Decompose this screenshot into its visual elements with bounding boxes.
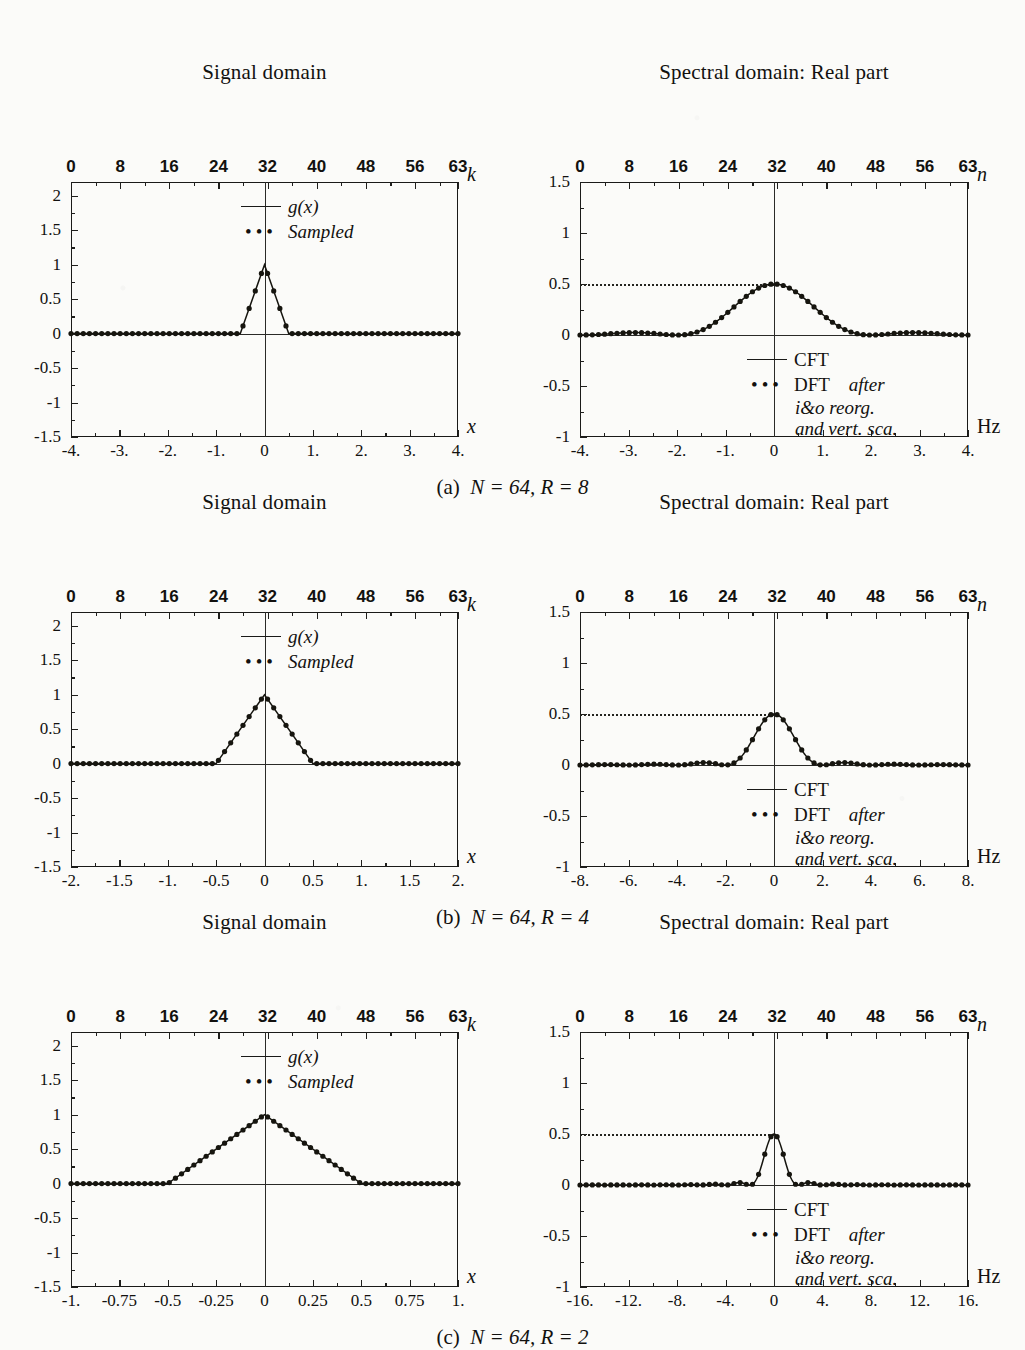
top-tick-label: 48: [356, 1007, 375, 1027]
bottom-tick-label: -1.5: [106, 871, 133, 891]
top-tick-label: 32: [258, 157, 277, 177]
y-tick-label: 2: [53, 1036, 62, 1056]
top-tick-label: 8: [625, 1007, 634, 1027]
bottom-tick-label: -2.: [159, 441, 177, 461]
legend-dot-swatch: •••: [241, 222, 281, 241]
legend-subline: i&o reorg.: [747, 1247, 897, 1268]
legend-entry: •••Sampled: [241, 219, 353, 244]
legend-label: DFT: [794, 1224, 830, 1246]
top-tick-label: 63: [449, 587, 468, 607]
bottom-tick-label: 2.: [816, 871, 829, 891]
top-tick-label: 48: [356, 157, 375, 177]
y-tick-label: 1: [562, 653, 571, 673]
legend-entry: CFT: [747, 1197, 897, 1222]
legend: g(x)•••Sampled: [241, 194, 353, 244]
bottom-tick-label: 1.: [816, 441, 829, 461]
bottom-tick-label: -4.: [62, 441, 80, 461]
y-tick-label: 1: [53, 685, 62, 705]
row-caption: (c) N = 64, R = 2: [0, 1325, 1025, 1350]
legend-label: Sampled: [288, 1071, 353, 1093]
bottom-axis-name: Hz: [977, 415, 1000, 438]
bottom-tick-label: 4.: [452, 441, 465, 461]
top-axis-name: n: [977, 163, 987, 186]
top-tick-label: 40: [307, 157, 326, 177]
y-tick-label: 1.5: [40, 1070, 61, 1090]
bottom-tick-label: 1.: [307, 441, 320, 461]
legend-label: g(x): [288, 196, 319, 218]
y-tick-label: -1: [47, 393, 61, 413]
bottom-tick-label: -0.5: [154, 1291, 181, 1311]
bottom-tick-label: 8.: [865, 1291, 878, 1311]
y-tick-label: -1: [47, 1243, 61, 1263]
top-tick-label: 24: [718, 1007, 737, 1027]
y-tick-label: -1.5: [34, 427, 61, 447]
legend-dot-swatch: •••: [241, 652, 281, 671]
bottom-axis-name: x: [467, 415, 476, 438]
top-tick-label: 16: [160, 1007, 179, 1027]
bottom-tick-label: 0: [770, 441, 779, 461]
bottom-axis-name: Hz: [977, 845, 1000, 868]
top-tick-label: 8: [115, 587, 124, 607]
panel-title: Spectral domain: Real part: [580, 490, 968, 515]
bottom-tick-label: -4.: [668, 871, 686, 891]
y-tick-label: 1: [562, 223, 571, 243]
legend-dot-swatch: •••: [747, 805, 787, 824]
top-tick-label: 32: [258, 587, 277, 607]
y-tick-label: 0: [562, 1175, 571, 1195]
y-tick-label: 0.5: [549, 274, 570, 294]
legend-subline: i&o reorg.: [747, 827, 897, 848]
bottom-tick-label: 4.: [865, 871, 878, 891]
top-tick-label: 24: [209, 1007, 228, 1027]
bottom-tick-label: 0.75: [395, 1291, 425, 1311]
bottom-tick-label: -2.: [668, 441, 686, 461]
y-tick-label: 0.5: [40, 289, 61, 309]
top-tick-label: 63: [959, 587, 978, 607]
legend-line-swatch: [241, 206, 281, 208]
bottom-tick-label: 2.: [452, 871, 465, 891]
legend-label-suffix: after: [849, 804, 885, 826]
top-tick-label: 16: [669, 587, 688, 607]
legend: CFT•••DFT afteri&o reorg.and vert. sca.: [747, 347, 897, 440]
legend-subline: and vert. sca.: [747, 848, 897, 869]
legend-entry: •••Sampled: [241, 649, 353, 674]
y-tick-label: 1: [53, 1105, 62, 1125]
y-tick-label: 2: [53, 186, 62, 206]
bottom-tick-label: 0: [260, 441, 269, 461]
bottom-tick-label: -4.: [716, 1291, 734, 1311]
legend-label: g(x): [288, 626, 319, 648]
bottom-tick-label: 1.: [452, 1291, 465, 1311]
bottom-tick-label: 0: [770, 871, 779, 891]
y-tick-label: -1: [556, 1277, 570, 1297]
top-tick-label: 24: [209, 157, 228, 177]
y-tick-label: 1.5: [549, 172, 570, 192]
bottom-tick-label: -6.: [619, 871, 637, 891]
bottom-tick-label: -3.: [110, 441, 128, 461]
y-tick-label: -1: [47, 823, 61, 843]
bottom-tick-label: 3.: [403, 441, 416, 461]
y-tick-label: 0: [53, 1174, 62, 1194]
top-tick-label: 40: [307, 1007, 326, 1027]
legend-line-swatch: [241, 636, 281, 638]
legend-label-suffix: after: [849, 374, 885, 396]
top-tick-label: 48: [356, 587, 375, 607]
top-tick-label: 0: [575, 157, 584, 177]
top-tick-label: 56: [915, 1007, 934, 1027]
y-tick-label: -1: [556, 427, 570, 447]
top-tick-label: 24: [718, 587, 737, 607]
y-tick-label: 0.5: [549, 1124, 570, 1144]
legend-label: Sampled: [288, 221, 353, 243]
caption-label: (c): [437, 1325, 460, 1349]
legend: g(x)•••Sampled: [241, 1044, 353, 1094]
legend-entry: CFT: [747, 777, 897, 802]
bottom-tick-label: -12.: [615, 1291, 642, 1311]
legend-subline: and vert. sca.: [747, 1268, 897, 1289]
bottom-tick-label: -16.: [567, 1291, 594, 1311]
legend-label: CFT: [794, 779, 829, 801]
bottom-tick-label: -1.: [159, 871, 177, 891]
top-tick-label: 48: [866, 157, 885, 177]
legend-label: g(x): [288, 1046, 319, 1068]
top-tick-label: 56: [915, 157, 934, 177]
legend-label: DFT: [794, 374, 830, 396]
top-tick-label: 40: [817, 157, 836, 177]
top-tick-label: 40: [817, 587, 836, 607]
